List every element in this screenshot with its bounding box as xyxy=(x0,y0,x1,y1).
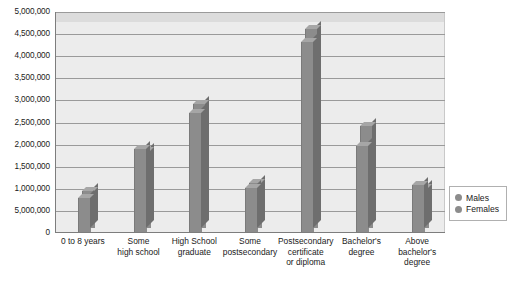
legend-marker-icon xyxy=(455,194,462,201)
bar-group xyxy=(335,12,391,232)
bar-group xyxy=(223,12,279,232)
bar-males xyxy=(78,198,90,232)
bar-side xyxy=(146,141,150,228)
bar-males xyxy=(245,188,257,232)
legend-marker-icon xyxy=(455,206,462,213)
bar-side xyxy=(205,96,209,224)
bar-side xyxy=(313,34,317,228)
bar-face xyxy=(134,149,147,232)
bar-males xyxy=(189,113,201,232)
y-axis-tick-label: 3,000,000 xyxy=(14,96,50,104)
bar-males xyxy=(356,146,368,232)
bar-side xyxy=(317,21,321,224)
bar-males xyxy=(301,42,313,232)
bar-group xyxy=(56,12,112,232)
y-axis-tick-label: 4,000,000 xyxy=(14,52,50,60)
bar-face xyxy=(301,42,314,232)
bar-males xyxy=(134,149,146,232)
bar-group xyxy=(112,12,168,232)
bar-side xyxy=(424,177,428,228)
y-axis-tick-label: 1,500,000 xyxy=(14,163,50,171)
bar-side xyxy=(150,143,154,224)
bar-group xyxy=(279,12,335,232)
y-axis-tick-label: 5,000,000 xyxy=(14,8,50,16)
legend-item-label: Males xyxy=(466,193,489,203)
bar-group xyxy=(390,12,446,232)
y-axis-tick-label: 2,500,000 xyxy=(14,118,50,126)
legend-item[interactable]: Males xyxy=(455,193,499,203)
bar-chart: 5,000,0004,500,0004,000,0003,500,0003,00… xyxy=(0,0,527,284)
legend: MalesFemales xyxy=(449,186,507,221)
legend-item-label: Females xyxy=(466,204,499,214)
plot-area xyxy=(55,12,445,233)
y-axis-tick-label: 1,000,000 xyxy=(14,185,50,193)
y-axis-tick-label: 4,500,000 xyxy=(14,30,50,38)
y-axis: 5,000,0004,500,0004,000,0003,500,0003,00… xyxy=(0,0,55,240)
bar-side xyxy=(368,138,372,228)
y-axis-tick-label: 2,000,000 xyxy=(14,140,50,148)
x-axis-label-line: bachelor's xyxy=(382,247,452,258)
y-axis-tick-label: 5,000,000 xyxy=(14,207,50,215)
bar-side xyxy=(201,105,205,228)
y-axis-tick-label: 3,500,000 xyxy=(14,74,50,82)
x-axis-label-line: Above xyxy=(382,236,452,247)
legend-item[interactable]: Females xyxy=(455,204,499,214)
bar-face xyxy=(78,198,91,232)
bar-males xyxy=(412,185,424,232)
x-axis-label-line: or diploma xyxy=(271,257,341,268)
bar-side xyxy=(372,118,376,224)
x-axis-label-line: degree xyxy=(382,257,452,268)
bar-group xyxy=(167,12,223,232)
x-axis-label: Abovebachelor'sdegree xyxy=(382,236,452,268)
x-axis-labels: 0 to 8 yearsSomehigh schoolHigh Schoolgr… xyxy=(55,236,445,284)
